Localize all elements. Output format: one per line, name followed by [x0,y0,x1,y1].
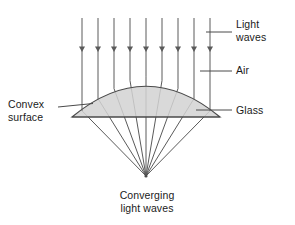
ray-direction-arrowhead-group [79,47,213,53]
arrowhead-6 [159,47,165,53]
label-converging-light-waves: Converging light waves [88,189,206,214]
arrowhead-4 [127,47,133,53]
arrowhead-5 [143,47,149,53]
convex-lens-body [72,86,220,117]
focal-point [144,174,147,177]
label-glass: Glass [236,104,263,117]
label-light-waves: Light waves [236,18,266,43]
arrowhead-8 [191,47,197,53]
arrowhead-3 [111,47,117,53]
lens-diagram-figure: Light waves Air Glass Convex surface Con… [0,0,295,225]
arrowhead-9 [207,47,213,53]
label-convex-surface: Convex surface [8,98,44,123]
arrowhead-1 [79,47,85,53]
arrowhead-7 [175,47,181,53]
label-air: Air [236,64,249,77]
arrowhead-2 [95,47,101,53]
